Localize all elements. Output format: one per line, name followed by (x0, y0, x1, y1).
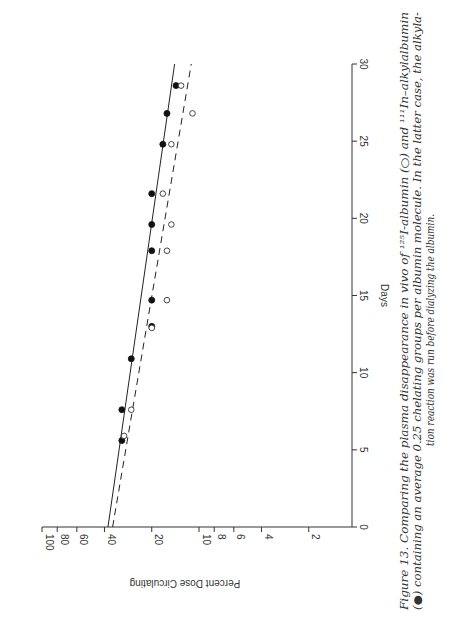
percent-axis-title: Percent Dose Circulating (130, 578, 241, 589)
open-circle-marker (190, 111, 196, 117)
percent-tick-label: 2 (310, 534, 321, 540)
percent-tick-label: 40 (106, 534, 117, 546)
percent-tick-label: 20 (153, 534, 164, 546)
filled-circle-marker (149, 222, 155, 228)
percent-tick-label: 60 (78, 534, 89, 546)
filled-circle-marker (149, 297, 155, 303)
percent-tick-label: 100 (44, 534, 55, 551)
caption-line: tion reaction was run before dialyzing t… (424, 214, 436, 446)
rotated-figure: 10080604020108642051015202530DaysPercent… (0, 0, 459, 617)
open-circle-marker (149, 325, 155, 331)
figure-caption: Figure 13. Comparing the plasma disappea… (398, 11, 436, 611)
open-circle-marker (164, 248, 170, 254)
filled-circle-marker (128, 356, 134, 362)
open-circle-marker (178, 83, 184, 89)
percent-tick-label: 8 (216, 534, 227, 540)
solid-fit-line (108, 64, 175, 527)
days-tick-label: 20 (358, 213, 369, 225)
open-circle-marker (121, 433, 127, 439)
filled-circle-marker (160, 141, 166, 147)
days-tick-label: 30 (358, 58, 369, 70)
open-circle-marker (169, 141, 175, 147)
days-tick-label: 0 (358, 524, 369, 530)
percent-tick-label: 6 (235, 534, 246, 540)
percent-tick-label: 4 (263, 534, 274, 540)
fit-lines (108, 64, 191, 527)
percent-tick-label: 10 (201, 534, 212, 546)
percent-tick-label: 80 (59, 534, 70, 546)
days-tick-label: 10 (358, 367, 369, 379)
axes (42, 64, 357, 532)
open-circle-marker (164, 297, 170, 303)
open-circle-marker (160, 191, 166, 197)
filled-circle-marker (164, 110, 170, 116)
axis-labels: 10080604020108642051015202530DaysPercent… (44, 58, 391, 589)
caption-line: Figure 13. Comparing the plasma disappea… (398, 12, 410, 611)
dashed-fit-line (113, 64, 192, 527)
days-axis-title: Days (379, 284, 390, 307)
caption-line: (●) containing an average 0.25 chelating… (411, 11, 423, 610)
filled-circle-marker (119, 407, 125, 413)
days-tick-label: 15 (358, 290, 369, 302)
filled-circle-marker (149, 248, 155, 254)
open-circle-marker (169, 222, 175, 228)
filled-circle-marker (149, 191, 155, 197)
days-tick-label: 5 (358, 447, 369, 453)
days-tick-label: 25 (358, 136, 369, 148)
open-circle-marker (128, 407, 134, 413)
